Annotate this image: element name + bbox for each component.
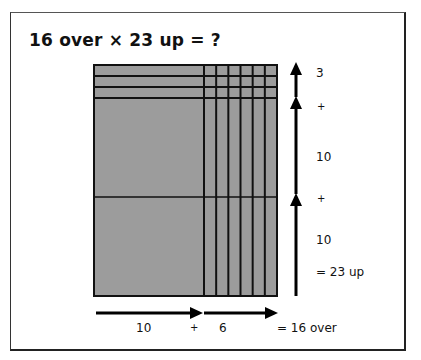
up-label-3: 3	[316, 66, 324, 80]
over-label-6: 6	[219, 321, 227, 335]
arrow-up-icon	[290, 193, 302, 206]
area-grid	[94, 65, 277, 296]
over-plus: +	[190, 322, 198, 333]
arrow-up-icon	[290, 62, 302, 75]
arrow-up-icon	[290, 96, 302, 109]
up-plus-1: +	[317, 101, 325, 112]
over-label-10: 10	[136, 321, 151, 335]
grid-background	[94, 65, 277, 296]
arrow-right-icon	[265, 307, 278, 319]
area-model-diagram	[0, 0, 421, 360]
up-label-10-a: 10	[316, 150, 331, 164]
arrow-right-icon	[190, 307, 203, 319]
over-total-label: = 16 over	[277, 321, 337, 335]
up-label-10-b: 10	[316, 233, 331, 247]
up-total-label: = 23 up	[316, 265, 364, 279]
up-plus-2: +	[317, 193, 325, 204]
